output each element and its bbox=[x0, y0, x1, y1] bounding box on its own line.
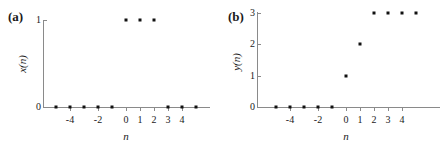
y-axis-title-b: y(n) bbox=[231, 53, 242, 71]
data-point bbox=[139, 19, 142, 22]
x-tick-a-3 bbox=[140, 108, 141, 111]
data-point bbox=[195, 106, 198, 109]
data-point bbox=[69, 106, 72, 109]
data-point bbox=[331, 106, 334, 109]
data-point bbox=[317, 106, 320, 109]
data-point bbox=[289, 106, 292, 109]
x-tick-label-b-0: -4 bbox=[286, 115, 294, 125]
y-tick-b-2 bbox=[258, 44, 261, 45]
data-point bbox=[275, 106, 278, 109]
x-axis-line-b bbox=[257, 107, 440, 108]
y-axis-line-b bbox=[257, 12, 258, 108]
data-point bbox=[181, 106, 184, 109]
x-tick-label-b-4: 2 bbox=[372, 115, 377, 125]
data-point bbox=[373, 11, 376, 14]
x-tick-b-4 bbox=[374, 108, 375, 111]
data-point bbox=[401, 11, 404, 14]
x-tick-label-b-2: 0 bbox=[344, 115, 349, 125]
x-tick-label-a-4: 2 bbox=[152, 115, 157, 125]
y-tick-label-b-2: 2 bbox=[247, 39, 255, 49]
x-tick-a-2 bbox=[126, 108, 127, 111]
x-tick-b-5 bbox=[388, 108, 389, 111]
y-axis-title-a: x(n) bbox=[17, 55, 28, 73]
x-tick-label-b-6: 4 bbox=[400, 115, 405, 125]
y-tick-a-1 bbox=[44, 20, 47, 21]
data-point bbox=[303, 106, 306, 109]
data-point bbox=[83, 106, 86, 109]
y-tick-label-b-0: 0 bbox=[247, 102, 255, 112]
figure-two-panel-stem-plots: (a)-4-20123401nx(n) (b)-4-2012340123ny(n… bbox=[0, 0, 448, 148]
data-point bbox=[387, 11, 390, 14]
panel-label-a: (a) bbox=[8, 10, 23, 23]
data-point bbox=[55, 106, 58, 109]
x-tick-label-a-5: 3 bbox=[166, 115, 171, 125]
x-tick-label-b-3: 1 bbox=[358, 115, 363, 125]
x-tick-label-a-3: 1 bbox=[138, 115, 143, 125]
x-tick-label-b-1: -2 bbox=[314, 115, 322, 125]
y-axis-line-a bbox=[43, 20, 44, 108]
x-tick-label-a-6: 4 bbox=[180, 115, 185, 125]
data-point bbox=[359, 43, 362, 46]
y-tick-label-a-1: 1 bbox=[33, 15, 41, 25]
data-point bbox=[415, 11, 418, 14]
y-tick-b-0 bbox=[258, 107, 261, 108]
x-tick-label-b-5: 3 bbox=[386, 115, 391, 125]
x-tick-b-2 bbox=[346, 108, 347, 111]
panel-b: (b)-4-2012340123ny(n) bbox=[224, 0, 448, 148]
y-tick-label-b-1: 1 bbox=[247, 71, 255, 81]
panel-a: (a)-4-20123401nx(n) bbox=[0, 0, 224, 148]
x-axis-title-a: n bbox=[123, 131, 129, 142]
data-point bbox=[111, 106, 114, 109]
data-point bbox=[345, 74, 348, 77]
x-tick-label-a-1: -2 bbox=[94, 115, 102, 125]
x-axis-title-b: n bbox=[343, 131, 349, 142]
x-tick-b-6 bbox=[402, 108, 403, 111]
data-point bbox=[167, 106, 170, 109]
y-tick-b-3 bbox=[258, 13, 261, 14]
x-tick-a-4 bbox=[154, 108, 155, 111]
data-point bbox=[153, 19, 156, 22]
data-point bbox=[125, 19, 128, 22]
x-tick-label-a-0: -4 bbox=[66, 115, 74, 125]
data-point bbox=[97, 106, 100, 109]
y-tick-a-0 bbox=[44, 107, 47, 108]
y-tick-b-1 bbox=[258, 76, 261, 77]
x-tick-label-a-2: 0 bbox=[124, 115, 129, 125]
y-tick-label-b-3: 3 bbox=[247, 8, 255, 18]
y-tick-label-a-0: 0 bbox=[33, 102, 41, 112]
panel-label-b: (b) bbox=[228, 10, 244, 23]
x-tick-b-3 bbox=[360, 108, 361, 111]
